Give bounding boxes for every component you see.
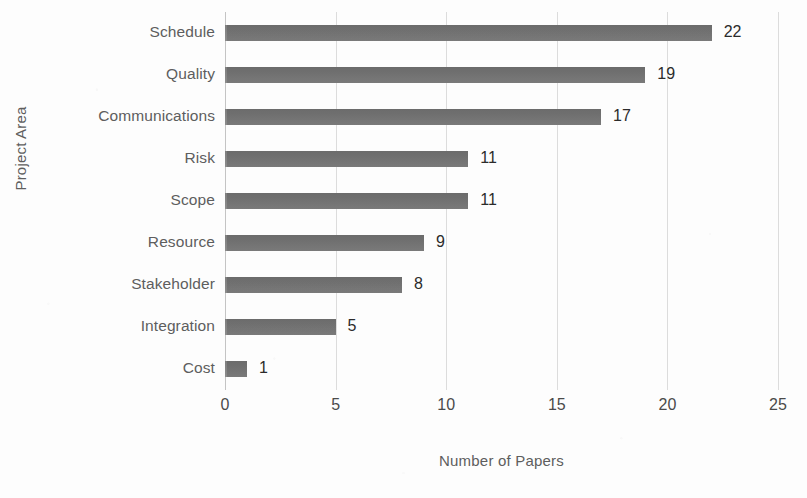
- bar-value-label: 19: [657, 65, 675, 83]
- category-label-risk: Risk: [0, 149, 215, 167]
- x-tick-label-5: 5: [306, 396, 366, 414]
- bar-value-label: 17: [613, 107, 631, 125]
- category-label-scope: Scope: [0, 191, 215, 209]
- bar-slot: 11: [225, 180, 778, 222]
- category-label-integration: Integration: [0, 317, 215, 335]
- x-tick-label-15: 15: [527, 396, 587, 414]
- bar-value-label: 1: [259, 359, 268, 377]
- category-label-schedule: Schedule: [0, 23, 215, 41]
- category-axis: ScheduleQualityCommunicationsRiskScopeRe…: [0, 12, 215, 390]
- category-label-stakeholder: Stakeholder: [0, 275, 215, 293]
- gridline-25: [778, 12, 779, 390]
- x-axis-title: Number of Papers: [225, 452, 778, 469]
- bar-value-label: 11: [480, 149, 497, 167]
- bar-slot: 8: [225, 264, 778, 306]
- bar[interactable]: [225, 109, 601, 125]
- bar-slot: 5: [225, 306, 778, 348]
- x-tick-label-20: 20: [637, 396, 697, 414]
- bar-value-label: 22: [724, 23, 742, 41]
- bar-value-label: 8: [414, 275, 423, 293]
- bar[interactable]: [225, 319, 336, 335]
- bar[interactable]: [225, 193, 468, 209]
- x-tick-label-0: 0: [195, 396, 255, 414]
- bar-slot: 11: [225, 138, 778, 180]
- bar-slot: 9: [225, 222, 778, 264]
- x-tick-label-10: 10: [416, 396, 476, 414]
- category-label-communications: Communications: [0, 107, 215, 125]
- bar[interactable]: [225, 151, 468, 167]
- bar-value-label: 9: [436, 233, 445, 251]
- bar-value-label: 11: [480, 191, 497, 209]
- bar[interactable]: [225, 277, 402, 293]
- bar[interactable]: [225, 235, 424, 251]
- bar-slot: 19: [225, 54, 778, 96]
- category-label-quality: Quality: [0, 65, 215, 83]
- x-axis-tick-labels: 0510152025: [225, 396, 778, 424]
- bar-slot: 17: [225, 96, 778, 138]
- bar[interactable]: [225, 25, 712, 41]
- plot-area: 22191711119851: [225, 12, 778, 390]
- bar-value-label: 5: [348, 317, 357, 335]
- x-tick-label-25: 25: [748, 396, 807, 414]
- category-label-resource: Resource: [0, 233, 215, 251]
- bar-slot: 1: [225, 348, 778, 390]
- bar-chart: Project Area ScheduleQualityCommunicatio…: [0, 0, 807, 498]
- bar[interactable]: [225, 67, 645, 83]
- bar-slot: 22: [225, 12, 778, 54]
- bar[interactable]: [225, 361, 247, 377]
- category-label-cost: Cost: [0, 359, 215, 377]
